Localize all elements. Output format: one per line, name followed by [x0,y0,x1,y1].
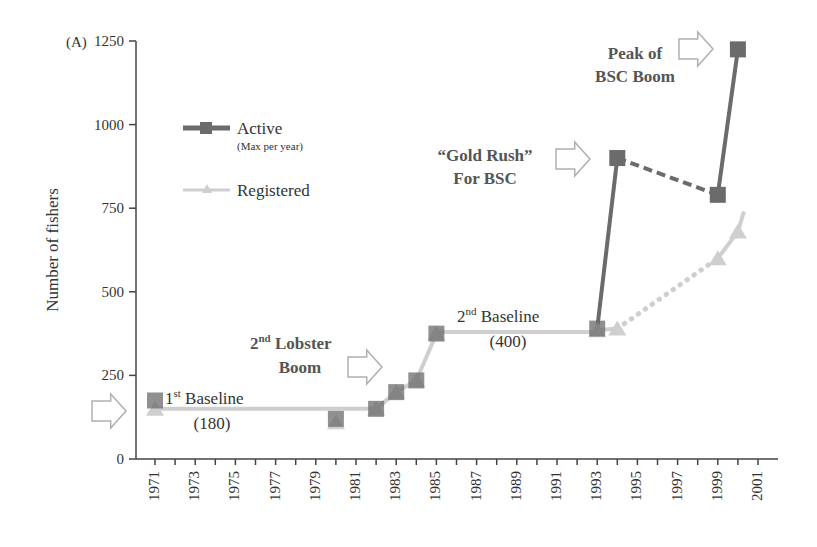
active-square-marker [589,321,605,337]
y-tick-label: 1250 [94,33,124,49]
gold-rush-arrow-icon [556,142,590,176]
active-square-marker [147,392,163,408]
panel-label: (A) [66,34,87,51]
peak-label: Peak of [608,44,663,63]
baseline1-label: 1st Baseline [165,387,244,408]
baseline2-value: (400) [490,332,527,351]
y-tick-label: 250 [102,367,125,383]
x-tick-label: 1975 [226,471,242,501]
x-tick-label: 1973 [186,471,202,501]
y-axis-title: Number of fishers [43,188,62,312]
legend-registered-label: Registered [237,181,310,200]
active-square-marker [609,150,625,166]
x-tick-label: 2001 [749,471,765,501]
active-square-marker [408,372,424,388]
active-line [718,49,738,194]
x-tick-label: 1989 [508,471,524,501]
baseline1-arrow-icon [92,394,126,428]
x-tick-label: 1981 [347,471,363,501]
baseline1-value: (180) [194,414,231,433]
active-square-marker [428,326,444,342]
x-tick-label: 1997 [669,471,685,502]
x-tick-label: 1991 [548,471,564,501]
active-square-marker [328,411,344,427]
x-tick-label: 1977 [267,471,283,502]
gold-rush-label-2: For BSC [453,169,516,188]
lobster-boom-label-2: Boom [279,358,322,377]
active-dashed-line [617,158,718,195]
legend-active-square-icon [200,122,212,134]
series-layer [146,41,747,429]
y-tick-label: 1000 [94,117,124,133]
fishers-chart: (A) Number of fishers 025050075010001250… [0,0,817,547]
legend-active-label: Active [237,119,282,138]
baseline2-label: 2nd Baseline [457,305,539,326]
legend: Active (Max per year) Registered [183,119,310,200]
x-tick-label: 1985 [427,471,443,501]
y-tick-label: 750 [102,200,125,216]
legend-active-sublabel: (Max per year) [237,140,303,153]
x-tick-label: 1995 [628,471,644,501]
x-tick-label: 1999 [709,471,725,501]
lobster-boom-label: 2nd Lobster [250,332,332,353]
gold-rush-label: “Gold Rush” [438,146,533,165]
x-tick-label: 1971 [146,471,162,501]
active-square-marker [730,41,746,57]
x-tick-label: 1983 [387,471,403,501]
x-tick-label: 1993 [588,471,604,501]
peak-arrow-icon [679,32,713,66]
registered-dotted-line [617,258,718,328]
y-tick-label: 500 [102,284,125,300]
x-tick-label: 1987 [468,471,484,502]
x-tick-label: 1979 [307,471,323,501]
active-square-marker [368,401,384,417]
active-line [597,158,617,329]
active-square-marker [710,187,726,203]
annotation-arrows [92,32,713,428]
registered-triangle-marker [729,224,747,239]
lobster-boom-arrow-icon [348,350,382,384]
active-square-marker [388,384,404,400]
y-tick-label: 0 [117,451,125,467]
peak-label-2: BSC Boom [595,67,675,86]
